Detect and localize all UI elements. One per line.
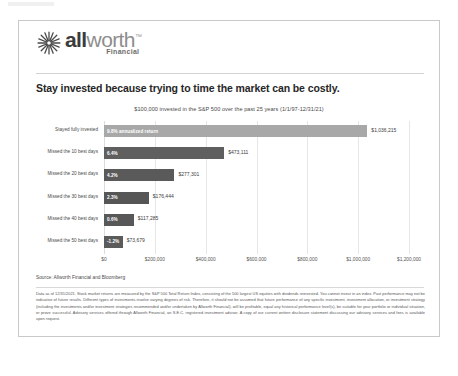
disclaimer-text: Data as of 12/31/2021. Stock market retu… — [36, 291, 425, 323]
bar: -1.2% — [104, 236, 123, 248]
bar-percent-label: 4.2% — [104, 173, 118, 178]
bar: 2.3% — [104, 192, 149, 204]
bar-chart-plot: Stayed fully invested9.8% annualized ret… — [104, 121, 409, 254]
bar-value-label: $117,285 — [138, 215, 158, 221]
bar-percent-label: -1.2% — [104, 239, 119, 244]
category-label-wrap: Missed the 40 best days — [22, 210, 98, 232]
bar-percent-label: 0.6% — [104, 217, 118, 222]
category-label-wrap: Missed the 30 best days — [22, 188, 98, 210]
bar: 9.8% annualized return — [104, 125, 367, 137]
category-label-wrap: Missed the 20 best days — [22, 165, 98, 187]
category-label-wrap: Missed the 10 best days — [22, 143, 98, 165]
logo-subtitle: Financial — [106, 48, 139, 55]
category-label: Missed the 10 best days — [47, 149, 98, 154]
bar-value-label: $73,679 — [127, 237, 145, 243]
logo-wordmark: allworth™ Financial — [65, 29, 141, 50]
gridline — [409, 121, 410, 254]
page-root: allworth™ Financial Stay invested becaus… — [0, 0, 458, 376]
category-label: Stayed fully invested — [55, 127, 98, 132]
bar-value-label: $277,301 — [178, 171, 199, 177]
category-label-wrap: Missed the 50 best days — [22, 232, 98, 254]
bar: 0.6% — [104, 214, 134, 226]
bar: 6.4% — [104, 147, 224, 159]
top-artifact — [8, 2, 54, 6]
axis-tick-label: $1,000,000 — [346, 257, 370, 262]
card-header: allworth™ Financial — [19, 21, 439, 69]
axis-tick-label: $200,000 — [145, 257, 165, 262]
axis-tick-label: $400,000 — [196, 257, 216, 262]
x-axis-tick-labels: $0$200,000$400,000$600,000$800,000$1,000… — [104, 257, 409, 267]
bar-row: Missed the 10 best days6.4%$473,111 — [104, 143, 409, 165]
allworth-logo: allworth™ Financial — [36, 29, 141, 56]
category-label-wrap: Stayed fully invested — [22, 121, 98, 143]
starburst-icon — [36, 30, 62, 56]
category-label: Missed the 30 best days — [47, 194, 98, 199]
header-divider — [36, 73, 424, 74]
bar-value-label: $1,036,215 — [371, 127, 396, 133]
infographic-card: allworth™ Financial Stay invested becaus… — [18, 20, 440, 337]
logo-trademark: ™ — [135, 33, 141, 40]
axis-tick-label: $1,200,000 — [397, 257, 421, 262]
bar: 4.2% — [104, 169, 174, 181]
logo-all-text: all — [65, 28, 87, 51]
category-label: Missed the 20 best days — [47, 171, 98, 176]
category-label: Missed the 50 best days — [47, 238, 98, 243]
axis-tick-label: $600,000 — [246, 257, 266, 262]
bar-value-label: $473,111 — [228, 149, 248, 155]
axis-tick-label: $0 — [101, 257, 106, 262]
bar-row: Missed the 30 best days2.3%$176,444 — [104, 188, 409, 210]
axis-tick-label: $800,000 — [297, 257, 317, 262]
category-label: Missed the 40 best days — [47, 216, 98, 221]
bar-row: Missed the 20 best days4.2%$277,301 — [104, 165, 409, 187]
bar-percent-label: 9.8% annualized return — [104, 129, 158, 134]
bar-percent-label: 2.3% — [104, 195, 118, 200]
source-note: Source: Allworth Financial and Bloomberg — [36, 275, 125, 280]
headline: Stay invested because trying to time the… — [36, 82, 339, 94]
bar-value-label: $176,444 — [153, 193, 174, 199]
disclaimer-divider — [36, 287, 424, 288]
bar-row: Stayed fully invested9.8% annualized ret… — [104, 121, 409, 143]
bar-row: Missed the 50 best days-1.2%$73,679 — [104, 232, 409, 254]
logo-word-line: allworth™ — [65, 29, 141, 50]
bar-percent-label: 6.4% — [104, 151, 118, 156]
chart-title: $100,000 invested in the S&P 500 over th… — [19, 106, 439, 112]
bar-row: Missed the 40 best days0.6%$117,285 — [104, 210, 409, 232]
